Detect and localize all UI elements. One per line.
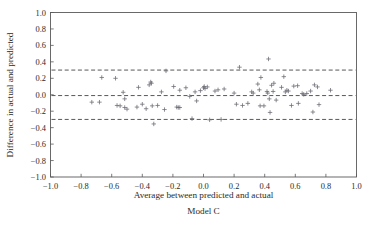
y-tick-label: 0.4 bbox=[36, 58, 47, 67]
y-axis-tick-labels: 1.00.80.60.40.20.0−0.2−0.4−0.6−0.8−1.0 bbox=[31, 9, 47, 183]
data-point bbox=[232, 91, 236, 95]
y-tick-label: −0.2 bbox=[31, 107, 46, 116]
x-tick-label: −0.6 bbox=[104, 182, 119, 191]
data-point bbox=[258, 104, 262, 108]
data-point bbox=[279, 85, 283, 89]
data-point bbox=[152, 122, 156, 126]
data-point bbox=[97, 100, 101, 104]
data-point bbox=[184, 86, 188, 90]
data-point bbox=[266, 57, 270, 61]
data-point bbox=[234, 102, 238, 106]
data-point bbox=[135, 105, 139, 109]
reference-lines-group bbox=[52, 70, 356, 119]
y-axis-tick-marks bbox=[51, 13, 54, 178]
data-point bbox=[190, 116, 194, 120]
scatter-plot-canvas: −1.0−0.8−0.6−0.4−0.20.00.20.40.60.81.0 1… bbox=[0, 0, 374, 227]
data-point bbox=[328, 88, 332, 92]
data-point bbox=[274, 98, 278, 102]
x-tick-label: 0.8 bbox=[321, 182, 331, 191]
panel-caption: Model C bbox=[187, 206, 219, 216]
data-point bbox=[144, 107, 148, 111]
data-point bbox=[118, 104, 122, 108]
data-point bbox=[296, 101, 300, 105]
y-tick-label: 0.2 bbox=[36, 74, 46, 83]
data-point bbox=[90, 100, 94, 104]
y-tick-label: 0.0 bbox=[36, 91, 46, 100]
x-axis-tick-marks bbox=[51, 174, 357, 177]
data-point bbox=[113, 76, 117, 80]
data-point bbox=[100, 75, 104, 79]
data-point bbox=[256, 82, 260, 86]
data-point bbox=[257, 88, 261, 92]
data-point bbox=[207, 118, 211, 122]
data-point bbox=[295, 84, 299, 88]
data-point-markers bbox=[90, 57, 333, 126]
y-tick-label: 0.6 bbox=[36, 41, 46, 50]
data-point bbox=[305, 91, 309, 95]
data-point bbox=[237, 65, 241, 69]
plot-frame bbox=[51, 13, 357, 178]
data-point bbox=[312, 83, 316, 87]
y-tick-label: −0.4 bbox=[31, 124, 47, 133]
data-point bbox=[159, 90, 163, 94]
data-point bbox=[164, 69, 168, 73]
data-point bbox=[155, 103, 159, 107]
data-point bbox=[198, 88, 202, 92]
data-point bbox=[194, 99, 198, 103]
data-point bbox=[272, 81, 276, 85]
data-point bbox=[222, 87, 226, 91]
data-point bbox=[292, 84, 296, 88]
data-point bbox=[259, 75, 263, 79]
data-point bbox=[315, 85, 319, 89]
data-point bbox=[115, 103, 119, 107]
data-point bbox=[317, 102, 321, 106]
y-tick-label: 1.0 bbox=[36, 9, 46, 18]
data-point bbox=[162, 107, 166, 111]
data-point bbox=[188, 94, 192, 98]
y-tick-label: −0.6 bbox=[31, 140, 46, 149]
data-point bbox=[289, 103, 293, 107]
x-tick-label: 0.6 bbox=[290, 182, 300, 191]
y-tick-label: −1.0 bbox=[31, 173, 46, 182]
data-point bbox=[136, 85, 140, 89]
data-point bbox=[308, 89, 312, 93]
x-tick-label: −1.0 bbox=[43, 182, 58, 191]
x-tick-label: 1.0 bbox=[351, 182, 361, 191]
y-tick-label: −0.8 bbox=[31, 157, 46, 166]
data-point bbox=[268, 110, 272, 114]
x-tick-label: −0.8 bbox=[73, 182, 88, 191]
y-tick-label: 0.8 bbox=[36, 25, 46, 34]
y-axis-title: Difference in actual and predicted bbox=[5, 32, 15, 157]
bland-altman-figure: −1.0−0.8−0.6−0.4−0.20.00.20.40.60.81.0 1… bbox=[0, 0, 374, 227]
data-point bbox=[282, 74, 286, 78]
data-point bbox=[311, 110, 315, 114]
data-point bbox=[219, 117, 223, 121]
data-point bbox=[178, 88, 182, 92]
data-point bbox=[193, 90, 197, 94]
data-point bbox=[269, 83, 273, 87]
x-axis-title: Average between predicted and actual bbox=[134, 190, 274, 200]
data-point bbox=[121, 90, 125, 94]
data-point bbox=[123, 97, 127, 101]
data-point bbox=[262, 104, 266, 108]
data-point bbox=[240, 103, 244, 107]
data-point bbox=[150, 104, 154, 108]
data-point bbox=[246, 101, 250, 105]
data-point bbox=[267, 97, 271, 101]
data-point bbox=[271, 89, 275, 93]
data-point bbox=[171, 84, 175, 88]
data-point bbox=[140, 102, 144, 106]
